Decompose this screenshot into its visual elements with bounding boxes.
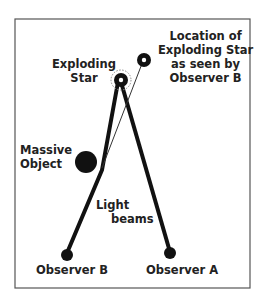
light-beams-label: Light beams xyxy=(96,198,154,226)
massive-object-line2: Object xyxy=(20,157,72,171)
massive-object-label: Massive Object xyxy=(20,143,72,171)
apparent-star-core xyxy=(142,58,146,62)
observer-b-dot xyxy=(61,249,73,261)
exploding-star-core xyxy=(119,78,123,82)
apparent-location-line2: Exploding Star xyxy=(158,43,253,57)
exploding-star-label-line2: Star xyxy=(52,71,116,85)
exploding-star-label: Exploding Star xyxy=(52,57,116,85)
observer-b-label: Observer B xyxy=(36,263,108,277)
apparent-location-line3: as seen by xyxy=(158,57,253,71)
observer-a-label: Observer A xyxy=(146,263,218,277)
apparent-location-label: Location of Exploding Star as seen by Ob… xyxy=(158,29,253,85)
light-beams-line2: beams xyxy=(96,212,154,226)
light-beams-line1: Light xyxy=(96,198,154,212)
observer-a-dot xyxy=(164,247,176,259)
apparent-location-line4: Observer B xyxy=(158,71,253,85)
massive-object xyxy=(75,151,97,173)
exploding-star-label-line1: Exploding xyxy=(52,57,116,71)
massive-object-line1: Massive xyxy=(20,143,72,157)
light-beam-to-observer-a xyxy=(121,82,170,252)
apparent-location-line1: Location of xyxy=(158,29,253,43)
